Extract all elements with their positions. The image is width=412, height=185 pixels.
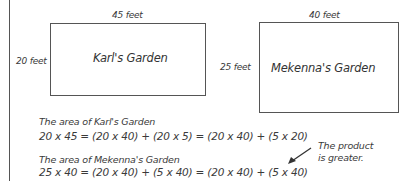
karl-area-heading: The area of Karl's Garden xyxy=(39,116,155,127)
page-left-border xyxy=(9,0,10,181)
karl-area-equation: 20 x 45 = (20 x 40) + (20 x 5) = (20 x 4… xyxy=(39,130,308,142)
karl-garden-label: Karl's Garden xyxy=(93,51,168,65)
karl-garden-rectangle: Karl's Garden xyxy=(50,23,206,96)
mekenna-height-label: 25 feet xyxy=(220,62,251,72)
note-line-1: The product xyxy=(318,140,373,151)
mekenna-width-label: 40 feet xyxy=(309,10,340,20)
mekenna-garden-rectangle: Mekenna's Garden xyxy=(259,22,399,113)
karl-width-label: 45 feet xyxy=(112,10,143,20)
mekenna-garden-label: Mekenna's Garden xyxy=(271,61,375,75)
mekenna-area-heading: The area of Mekenna's Garden xyxy=(39,154,180,165)
arrow-down-left-icon xyxy=(285,145,315,167)
karl-height-label: 20 feet xyxy=(16,56,47,66)
mekenna-area-equation: 25 x 40 = (20 x 40) + (5 x 40) = (20 x 4… xyxy=(39,166,308,178)
note-line-2: is greater. xyxy=(318,152,364,163)
